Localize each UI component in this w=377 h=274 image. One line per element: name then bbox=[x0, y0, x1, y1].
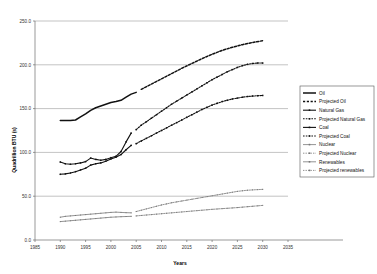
series-marker bbox=[232, 192, 233, 193]
series-marker bbox=[257, 95, 259, 97]
series-marker bbox=[257, 205, 258, 206]
series-marker bbox=[166, 213, 167, 214]
series-marker bbox=[141, 210, 142, 211]
series-marker bbox=[125, 149, 127, 151]
x-axis-title: Years bbox=[173, 260, 187, 266]
chart-canvas: 0.050.0100.0150.0200.0250.0 198519901995… bbox=[0, 0, 377, 274]
series-marker bbox=[262, 62, 264, 64]
series-marker bbox=[221, 101, 223, 103]
series-marker bbox=[212, 209, 213, 210]
series-marker bbox=[252, 95, 254, 97]
series-marker bbox=[75, 220, 76, 221]
legend-swatch-marker bbox=[309, 135, 311, 137]
series-marker bbox=[201, 197, 202, 198]
series-marker bbox=[171, 212, 172, 213]
series-marker bbox=[65, 173, 67, 175]
series-marker bbox=[151, 214, 152, 215]
series-marker bbox=[95, 218, 96, 219]
series-marker bbox=[186, 211, 187, 212]
series-marker bbox=[206, 107, 208, 109]
x-tick-label: 2015 bbox=[182, 245, 193, 250]
series-marker bbox=[85, 167, 87, 169]
series-marker bbox=[60, 217, 61, 218]
series-marker bbox=[166, 203, 167, 204]
series-marker bbox=[110, 217, 111, 218]
series-marker bbox=[262, 189, 263, 190]
series-marker bbox=[196, 198, 197, 199]
series-marker bbox=[110, 212, 111, 213]
series-marker bbox=[247, 206, 248, 207]
series-marker bbox=[120, 151, 122, 153]
series-marker bbox=[247, 96, 249, 98]
legend-item-label: Renewables bbox=[319, 160, 345, 165]
series-marker bbox=[186, 117, 188, 119]
series-marker bbox=[100, 218, 101, 219]
x-tick-label: 1995 bbox=[80, 245, 91, 250]
y-tick-label: 200.0 bbox=[20, 63, 32, 68]
series-marker bbox=[115, 156, 117, 158]
series-marker bbox=[70, 163, 72, 165]
series-marker bbox=[70, 220, 71, 221]
series-marker bbox=[227, 71, 229, 73]
series-marker bbox=[242, 65, 244, 67]
series-marker bbox=[211, 104, 213, 106]
x-tick-label: 2035 bbox=[283, 245, 294, 250]
series-marker bbox=[100, 213, 101, 214]
legend-swatch-marker bbox=[309, 170, 311, 172]
series-marker bbox=[191, 211, 192, 212]
series-marker bbox=[115, 216, 116, 217]
series-marker bbox=[257, 189, 258, 190]
series-marker bbox=[146, 208, 147, 209]
series-marker bbox=[211, 79, 213, 81]
series-marker bbox=[126, 216, 127, 217]
series-marker bbox=[186, 94, 188, 96]
legend-item-label: Nuclear bbox=[319, 142, 336, 147]
series-marker bbox=[156, 114, 158, 116]
series-marker bbox=[171, 103, 173, 105]
legend-item-label: Oil bbox=[319, 91, 325, 96]
series-marker bbox=[221, 74, 223, 76]
legend-item-label: Projected Nuclear bbox=[319, 151, 357, 156]
series-marker bbox=[131, 212, 132, 213]
series-marker bbox=[146, 138, 148, 140]
series-marker bbox=[257, 62, 259, 64]
series-marker bbox=[176, 201, 177, 202]
series-marker bbox=[70, 172, 72, 174]
series-marker bbox=[252, 206, 253, 207]
series-marker bbox=[252, 63, 254, 65]
series-marker bbox=[232, 69, 234, 71]
series-marker bbox=[247, 64, 249, 66]
y-tick-label: 50.0 bbox=[22, 194, 31, 199]
series-marker bbox=[181, 97, 183, 99]
series-marker bbox=[207, 196, 208, 197]
series-marker bbox=[85, 214, 86, 215]
legend-item-label: Natural Gas bbox=[319, 108, 345, 113]
series-marker bbox=[141, 215, 142, 216]
series-marker bbox=[120, 154, 122, 156]
series-marker bbox=[146, 121, 148, 123]
series-marker bbox=[65, 221, 66, 222]
series-marker bbox=[176, 100, 178, 102]
series-marker bbox=[222, 194, 223, 195]
y-tick-label: 150.0 bbox=[20, 106, 32, 111]
series-marker bbox=[252, 189, 253, 190]
series-marker bbox=[60, 221, 61, 222]
series-marker bbox=[196, 111, 198, 113]
series-marker bbox=[181, 119, 183, 121]
series-marker bbox=[217, 208, 218, 209]
series-marker bbox=[237, 67, 239, 69]
series-marker bbox=[176, 122, 178, 124]
x-tick-label: 2020 bbox=[207, 245, 218, 250]
series-marker bbox=[130, 132, 132, 134]
series-marker bbox=[60, 161, 62, 163]
series-marker bbox=[136, 215, 137, 216]
y-tick-label: 0.0 bbox=[25, 238, 32, 243]
series-marker bbox=[80, 219, 81, 220]
series-marker bbox=[262, 205, 263, 206]
series-marker bbox=[161, 130, 163, 132]
series-marker bbox=[207, 209, 208, 210]
series-marker bbox=[100, 160, 102, 162]
series-marker bbox=[156, 214, 157, 215]
y-axis-title: Quadrillion BTU (s) bbox=[11, 127, 17, 173]
legend-swatch-marker bbox=[309, 118, 311, 120]
